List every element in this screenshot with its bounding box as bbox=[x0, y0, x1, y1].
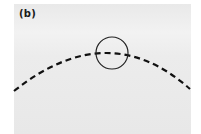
circle-marker bbox=[96, 37, 128, 69]
diagram-canvas bbox=[0, 0, 201, 134]
dashed-arc bbox=[14, 53, 190, 91]
